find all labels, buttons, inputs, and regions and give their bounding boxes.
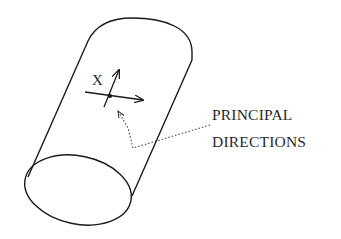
principal-direction-arrow-2 xyxy=(104,70,119,107)
annotation-line-1: PRINCIPAL xyxy=(212,106,292,124)
cylinder-left-edge xyxy=(28,41,88,177)
annotation-line-2: DIRECTIONS xyxy=(212,133,306,151)
annotation-leader-line xyxy=(118,111,210,148)
point-label: X xyxy=(92,72,103,89)
principal-directions-diagram: X PRINCIPAL DIRECTIONS xyxy=(0,0,341,239)
principal-direction-arrow-1 xyxy=(85,92,143,100)
cylinder-right-edge xyxy=(132,60,192,196)
surface-point xyxy=(108,94,112,98)
cylinder-top-arc xyxy=(88,18,192,60)
